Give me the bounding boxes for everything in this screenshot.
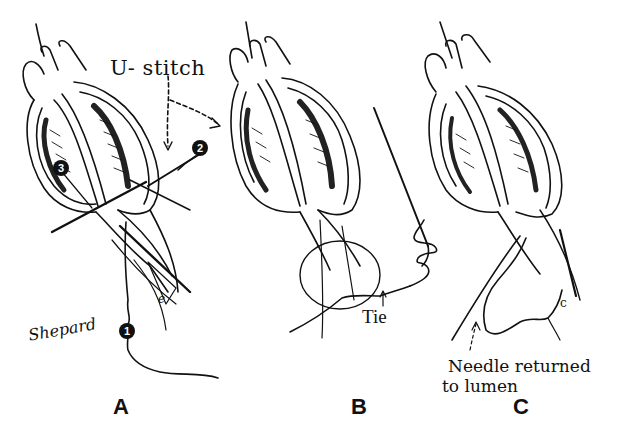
needle-returned-line-2: to lumen <box>442 376 591 396</box>
marker-2: 2 <box>192 140 208 156</box>
u-stitch-label: U- stitch <box>110 56 205 80</box>
needle-returned-line-1: Needle returned <box>448 356 591 376</box>
panel-label-c: C <box>513 394 529 420</box>
needle-returned-label: Needle returned to lumen <box>448 356 591 396</box>
panel-label-a: A <box>113 394 129 420</box>
letter-c: c <box>560 296 567 310</box>
marker-1: 1 <box>119 323 135 339</box>
tie-label: Tie <box>362 306 387 328</box>
marker-3: 3 <box>53 160 69 176</box>
panel-label-b: B <box>351 394 367 420</box>
letter-e: e <box>158 292 165 306</box>
panel-c-drawing <box>425 22 580 350</box>
panel-b-drawing <box>230 22 437 338</box>
